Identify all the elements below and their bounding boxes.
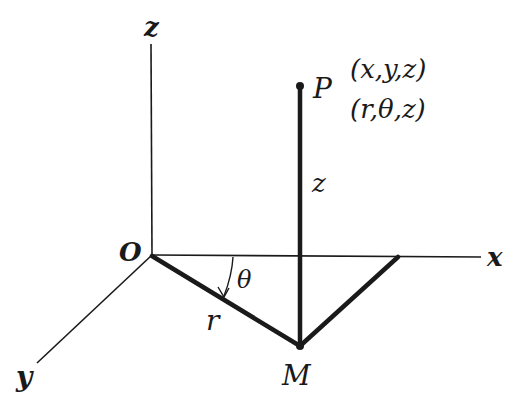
origin-label: O — [119, 237, 142, 267]
cylindrical-coords-label: (r,θ,z) — [350, 94, 426, 124]
cartesian-coords-label: (x,y,z) — [350, 54, 426, 84]
radius-label: r — [206, 304, 221, 337]
radius-segment — [152, 256, 300, 346]
cylindrical-coordinates-diagram: z x y O P (x,y,z) (r,θ,z) z θ r M — [0, 0, 514, 414]
y-axis — [37, 255, 152, 363]
point-p-label: P — [312, 72, 333, 105]
point-m-dot — [296, 342, 304, 350]
z-axis-label: z — [143, 12, 160, 42]
y-axis-label: y — [15, 360, 34, 393]
point-m-label: M — [281, 359, 312, 392]
angle-label: θ — [237, 266, 252, 294]
projection-to-x-segment — [300, 257, 398, 346]
height-label: z — [311, 168, 326, 198]
point-p-dot — [296, 82, 304, 90]
x-axis-label: x — [486, 242, 503, 272]
x-axis — [152, 255, 481, 257]
z-axis — [151, 44, 152, 255]
